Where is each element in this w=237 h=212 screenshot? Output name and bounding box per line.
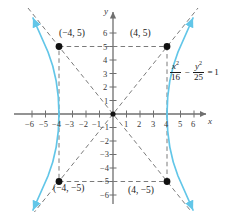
x-tick-label: 5 (178, 120, 182, 129)
y-tick-label: −2 (100, 137, 109, 146)
x-tick-label: −6 (25, 120, 34, 129)
y-tick-label: 2 (103, 83, 107, 92)
graph-canvas (0, 0, 237, 212)
y-term-fraction: y2 25 (192, 62, 205, 82)
y-tick-label: −4 (100, 164, 109, 173)
x-tick-label: 1 (124, 120, 128, 129)
x-term-numerator: x2 (170, 62, 181, 73)
point-label-neg4-5: (−4, 5) (59, 29, 85, 39)
y-tick-label: −6 (100, 191, 109, 200)
y-term-numerator: y2 (193, 62, 204, 73)
x-axis-label: x (208, 117, 212, 126)
y-tick-label: 4 (103, 56, 107, 65)
equation-right-side: 1 (214, 68, 219, 77)
y-tick-label: 5 (103, 43, 107, 52)
x-tick-label: 4 (164, 120, 168, 129)
equals-sign: = (208, 68, 213, 77)
minus-operator: − (185, 68, 190, 77)
y-tick-label: 1 (104, 97, 108, 106)
point-4-neg5 (164, 178, 171, 185)
x-tick-label: 6 (191, 120, 195, 129)
hyperbola-figure: −6 −5 −4 −3 −2 −1 1 2 3 4 5 6 6 5 4 3 2 … (0, 0, 237, 212)
y-tick-label: −5 (100, 177, 109, 186)
y-term-denominator: 25 (192, 73, 205, 83)
x-term-fraction: x2 16 (169, 62, 182, 82)
y-tick-label: −3 (100, 150, 109, 159)
x-tick-label: −2 (79, 120, 88, 129)
point-origin (110, 111, 115, 116)
point-label-4-5: (4, 5) (130, 29, 151, 39)
y-tick-label: 6 (103, 29, 107, 38)
equation-label: x2 16 − y2 25 = 1 (168, 62, 219, 82)
point-label-4-neg5: (4, −5) (128, 186, 154, 196)
y-tick-label: 3 (103, 70, 107, 79)
point-4-5 (164, 43, 171, 50)
point-label-neg4-neg5: (−4, −5) (53, 184, 84, 194)
x-tick-label: 3 (151, 120, 155, 129)
left-branch-upper (33, 18, 59, 114)
y-axis-label: y (104, 7, 108, 16)
point-neg4-5 (56, 43, 63, 50)
y-tick-label: −1 (100, 123, 109, 132)
x-tick-label: 2 (137, 120, 141, 129)
x-tick-label: −5 (39, 120, 48, 129)
x-tick-label: −4 (52, 120, 61, 129)
x-tick-label: −3 (65, 120, 74, 129)
x-term-denominator: 16 (169, 73, 182, 83)
